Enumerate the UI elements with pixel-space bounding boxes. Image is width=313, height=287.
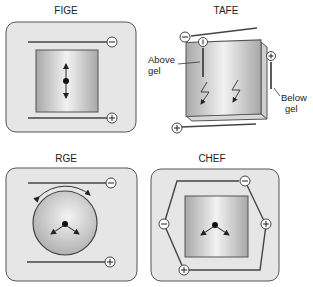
below-gel-label: Below gel	[281, 92, 307, 114]
above-gel-label-line2: gel	[148, 65, 175, 76]
fige-panel	[6, 22, 136, 132]
tafe-title: TAFE	[186, 5, 266, 16]
tafe-negative-electrode-icon	[180, 32, 190, 42]
chef-panel	[151, 169, 279, 281]
tafe-panel	[172, 28, 280, 133]
chef-positive-electrode-bottom-icon	[179, 265, 189, 275]
tafe-positive-electrode-icon	[172, 123, 182, 133]
fige-negative-electrode-icon	[107, 37, 117, 47]
chef-negative-electrode-top-icon	[240, 176, 250, 186]
rge-positive-electrode-icon	[105, 257, 115, 267]
above-gel-label-line1: Above	[148, 54, 175, 65]
below-gel-label-line1: Below	[281, 92, 307, 103]
fige-positive-electrode-icon	[107, 113, 117, 123]
chef-positive-electrode-right-icon	[261, 219, 271, 229]
below-gel-label-line2: gel	[281, 103, 307, 114]
fige-title: FIGE	[26, 5, 106, 16]
tafe-above-gel-electrode-icon	[199, 38, 208, 47]
chef-title: CHEF	[172, 153, 252, 164]
above-gel-label: Above gel	[148, 54, 175, 76]
rge-title: RGE	[26, 153, 106, 164]
rge-negative-electrode-icon	[106, 178, 116, 188]
chef-negative-electrode-left-icon	[159, 219, 169, 229]
rge-panel	[6, 168, 137, 281]
electrophoresis-diagram	[0, 0, 313, 287]
tafe-below-gel-electrode-icon	[267, 52, 276, 61]
